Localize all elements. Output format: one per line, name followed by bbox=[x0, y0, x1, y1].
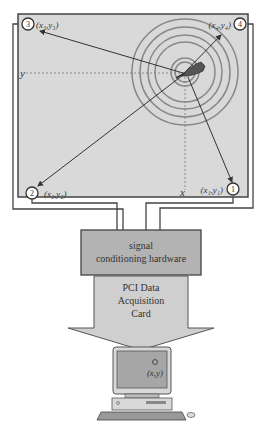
y-axis-label: y bbox=[19, 67, 25, 79]
sensor-1: 1 (x₁,y₁) bbox=[201, 183, 240, 195]
computer-icon: (x,y) bbox=[97, 347, 195, 420]
keyboard-icon bbox=[97, 412, 186, 420]
svg-text:4: 4 bbox=[238, 20, 242, 29]
acoustic-localization-diagram: 3 (x₃,y₃) 4 (x₄,y₄) 2 (x₂,y₂) 1 (x₁,y₁) … bbox=[0, 0, 262, 424]
sensor-panel bbox=[18, 14, 248, 197]
svg-text:Acquisition: Acquisition bbox=[118, 295, 165, 306]
svg-text:(x₂,y₂): (x₂,y₂) bbox=[44, 189, 67, 199]
x-axis-label: x bbox=[179, 186, 185, 198]
sensor-2: 2 (x₂,y₂) bbox=[26, 187, 67, 199]
svg-text:2: 2 bbox=[30, 189, 34, 198]
mouse-icon bbox=[187, 413, 195, 418]
sensor-3: 3 (x₃,y₃) bbox=[22, 18, 59, 30]
svg-text:3: 3 bbox=[26, 20, 30, 29]
svg-text:(x,y): (x,y) bbox=[147, 368, 163, 378]
svg-text:PCI Data: PCI Data bbox=[123, 282, 161, 293]
svg-text:conditioning hardware: conditioning hardware bbox=[96, 253, 187, 264]
svg-text:(x₃,y₃): (x₃,y₃) bbox=[36, 20, 59, 30]
sensor-4: 4 (x₄,y₄) bbox=[209, 18, 247, 30]
svg-text:Card: Card bbox=[131, 308, 150, 319]
svg-text:(x₄,y₄): (x₄,y₄) bbox=[209, 20, 232, 30]
svg-text:1: 1 bbox=[231, 185, 235, 194]
svg-text:(x₁,y₁): (x₁,y₁) bbox=[201, 185, 224, 195]
svg-text:signal: signal bbox=[129, 240, 153, 251]
